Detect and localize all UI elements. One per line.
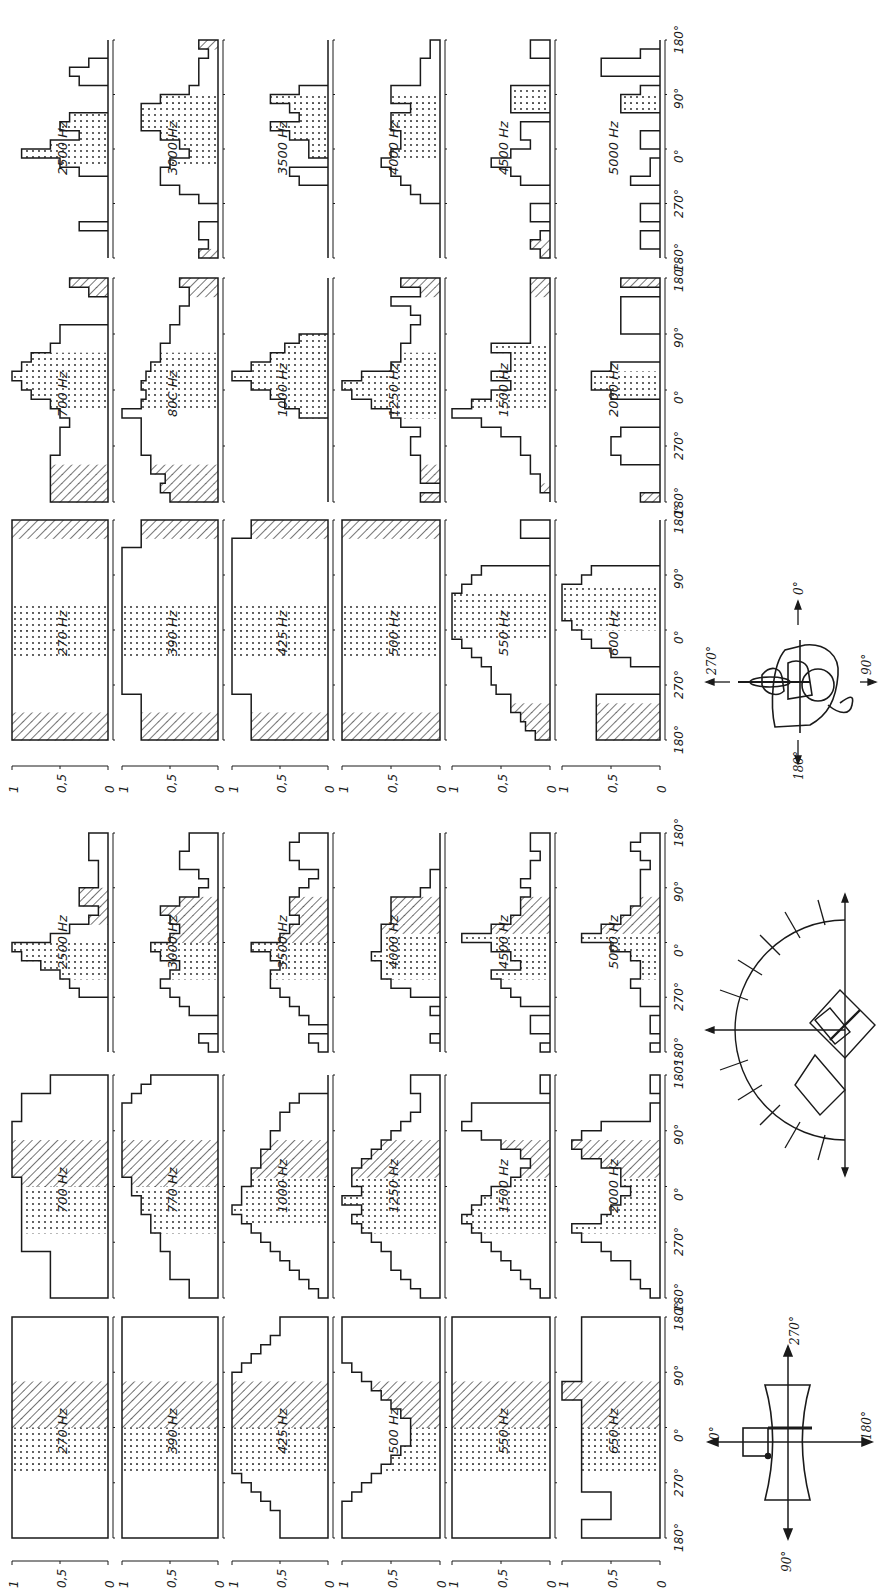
instrument-angle-90: 90°	[780, 1551, 794, 1572]
value-tick-label: 0	[323, 1580, 337, 1588]
player-angle-270: 270°	[705, 646, 719, 675]
cellist-top-view-icon	[700, 565, 881, 775]
angle-tick-label: 90°	[672, 87, 686, 108]
frequency-label: 500 Hz	[386, 611, 401, 657]
frequency-label: 270 Hz	[55, 1408, 70, 1454]
player-angle-0: 0°	[792, 581, 806, 595]
value-tick-label: 0	[213, 785, 227, 793]
value-tick-label: 0,5	[386, 1569, 400, 1588]
frequency-label: 650 Hz	[606, 1408, 621, 1454]
value-tick-label: 0,5	[496, 774, 510, 793]
value-tick-label: 1	[337, 785, 351, 793]
frequency-label: 5000 Hz	[606, 121, 621, 175]
angle-tick-label: 270°	[672, 1227, 686, 1256]
angle-tick-label: 180°	[672, 1523, 686, 1552]
value-tick-label: 1	[337, 1580, 351, 1588]
value-tick-label: 1	[447, 785, 461, 793]
value-tick-label: 0,5	[275, 1569, 289, 1588]
angle-tick-label: 270°	[672, 189, 686, 218]
player-orientation-diagram: 0° 270° 180° 90°	[700, 565, 881, 775]
frequency-label: 4500 Hz	[496, 915, 511, 969]
value-tick-label: 0	[103, 1580, 117, 1588]
angle-tick-label: 180°	[672, 1037, 686, 1066]
value-axis	[342, 765, 440, 771]
frequency-label: 3500 Hz	[275, 121, 290, 175]
value-axis	[342, 1560, 440, 1566]
frequency-label: 5000 Hz	[606, 915, 621, 969]
value-tick-label: 0,5	[606, 1569, 620, 1588]
radiation-fan-diagram	[700, 880, 881, 1210]
angle-tick-label: 180°	[672, 25, 686, 54]
frequency-label: 3500 Hz	[275, 915, 290, 969]
angle-tick-label: 0°	[672, 1187, 686, 1201]
angle-tick-label: 270°	[672, 431, 686, 460]
angle-tick-label: 0°	[672, 390, 686, 404]
angle-tick-label: 270°	[672, 982, 686, 1011]
frequency-label: 390 Hz	[165, 1408, 180, 1454]
frequency-label: 1250 Hz	[386, 363, 401, 417]
value-axis	[232, 765, 328, 771]
value-axis	[122, 1560, 218, 1566]
value-tick-label: 0,5	[275, 774, 289, 793]
value-tick-label: 0,5	[165, 774, 179, 793]
value-tick-label: 1	[7, 1580, 21, 1588]
frequency-label: 550 Hz	[496, 611, 511, 657]
instrument-angle-180: 180°	[860, 1411, 874, 1440]
angle-tick-label: 270°	[672, 1468, 686, 1497]
angle-tick-label: 180°	[672, 1283, 686, 1312]
frequency-label: 2500 Hz	[55, 915, 70, 969]
instrument-orientation-diagram: 270° 0° 180° 90°	[700, 1310, 881, 1588]
angle-tick-label: 0°	[672, 630, 686, 644]
frequency-label: 770 Hz	[165, 1168, 180, 1214]
angle-tick-label: 180°	[672, 818, 686, 847]
frequency-label: 2000 Hz	[606, 1159, 621, 1213]
value-tick-label: 1	[227, 1580, 241, 1588]
frequency-label: 1000 Hz	[275, 1159, 290, 1213]
value-axis	[12, 1560, 108, 1566]
angle-tick-label: 180°	[672, 243, 686, 272]
value-tick-label: 0,5	[165, 1569, 179, 1588]
angle-tick-label: 90°	[672, 568, 686, 589]
frequency-label: 3000 Hz	[165, 915, 180, 969]
value-axis	[452, 1560, 550, 1566]
player-angle-180: 180°	[792, 751, 806, 780]
cello-outline-icon	[700, 1310, 881, 1588]
instrument-angle-270: 270°	[788, 1316, 802, 1345]
frequency-label: 1500 Hz	[496, 363, 511, 417]
frequency-label: 700 Hz	[55, 1168, 70, 1214]
frequency-label: 4000 Hz	[386, 121, 401, 175]
frequency-label: 425 Hz	[275, 611, 290, 657]
frequency-label: 80C Hz	[165, 371, 180, 417]
value-tick-label: 1	[117, 785, 131, 793]
frequency-label: 390 Hz	[165, 611, 180, 657]
value-axis	[452, 765, 550, 771]
value-tick-label: 1	[7, 785, 21, 793]
player-angle-90: 90°	[860, 654, 874, 675]
frequency-label: 2000 Hz	[606, 363, 621, 417]
value-tick-label: 1	[557, 785, 571, 793]
value-tick-label: 1	[227, 785, 241, 793]
frequency-label: 4500 Hz	[496, 121, 511, 175]
frequency-label: 550 Hz	[496, 1408, 511, 1454]
instrument-angle-0: 0°	[708, 1426, 722, 1440]
value-axis	[562, 1560, 660, 1566]
value-tick-label: 1	[447, 1580, 461, 1588]
frequency-label: 3000 Hz	[165, 121, 180, 175]
frequency-label: 4000 Hz	[386, 915, 401, 969]
value-tick-label: 0,5	[55, 1569, 69, 1588]
frequency-label: 2500 Hz	[55, 121, 70, 175]
angle-tick-label: 90°	[672, 1365, 686, 1386]
value-tick-label: 0,5	[386, 774, 400, 793]
value-tick-label: 0	[323, 785, 337, 793]
angle-tick-label: 0°	[672, 1428, 686, 1442]
value-tick-label: 0,5	[606, 774, 620, 793]
value-tick-label: 0,5	[55, 774, 69, 793]
value-tick-label: 0	[655, 785, 669, 793]
frequency-label: 425 Hz	[275, 1408, 290, 1454]
value-axis	[122, 765, 218, 771]
radiation-arrows-icon	[700, 880, 881, 1210]
value-tick-label: 0	[103, 785, 117, 793]
frequency-label: 600 Hz	[606, 611, 621, 657]
angle-tick-label: 180°	[672, 725, 686, 754]
value-axis	[562, 765, 660, 771]
